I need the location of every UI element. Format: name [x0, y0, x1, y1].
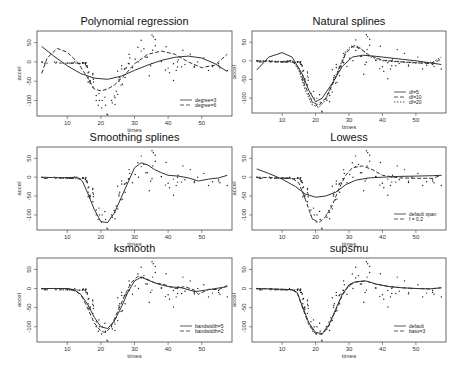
- legend: degree=3degree=6: [180, 97, 216, 108]
- legend-label: bass=3: [409, 328, 425, 334]
- y-tick-label: 50: [241, 154, 247, 161]
- panel-supsmu: supsmu1020304050500-50-100timesacceldefa…: [231, 242, 446, 359]
- x-tick-label: 30: [346, 234, 353, 240]
- x-tick-label: 10: [64, 120, 71, 126]
- y-tick-label: -100: [241, 208, 247, 221]
- fit-curve: [42, 163, 228, 223]
- y-tick-label: 50: [26, 154, 32, 161]
- y-tick-label: 50: [26, 265, 32, 272]
- x-tick-label: 50: [413, 346, 420, 352]
- x-tick-label: 40: [165, 120, 172, 126]
- x-tick-label: 10: [64, 346, 71, 352]
- x-tick-label: 10: [279, 117, 286, 123]
- y-tick-label: -100: [26, 320, 32, 333]
- y-axis-label: accel: [16, 66, 22, 80]
- x-tick-label: 20: [312, 117, 319, 123]
- x-tick-label: 10: [279, 346, 286, 352]
- panel-title: supsmu: [330, 242, 369, 254]
- x-tick-label: 50: [198, 346, 205, 352]
- regression-comparison-figure: Polynomial regression1020304050500-50-10…: [0, 0, 470, 371]
- legend-label: f = 0.2: [409, 216, 423, 222]
- y-tick-label: -50: [26, 191, 32, 200]
- x-tick-label: 50: [413, 117, 420, 123]
- x-tick-label: 30: [346, 117, 353, 123]
- y-tick-label: 0: [26, 60, 32, 64]
- y-tick-label: -50: [241, 74, 247, 83]
- y-tick-label: 0: [26, 286, 32, 290]
- y-tick-label: 50: [241, 265, 247, 272]
- x-tick-label: 20: [312, 346, 319, 352]
- x-axis-label: times: [127, 353, 141, 359]
- x-tick-label: 30: [131, 234, 138, 240]
- y-tick-label: 0: [241, 286, 247, 290]
- x-tick-label: 30: [346, 346, 353, 352]
- x-tick-label: 20: [98, 234, 105, 240]
- y-tick-label: 50: [26, 39, 32, 46]
- x-tick-label: 40: [379, 346, 386, 352]
- x-tick-label: 40: [165, 346, 172, 352]
- legend: defaultbass=3: [394, 323, 425, 334]
- x-tick-label: 30: [131, 346, 138, 352]
- y-axis-label: accel: [231, 181, 237, 195]
- y-tick-label: -50: [241, 303, 247, 312]
- x-tick-label: 20: [98, 346, 105, 352]
- x-axis-label: times: [342, 353, 356, 359]
- y-tick-label: -50: [26, 76, 32, 85]
- panel-title: Natural splines: [313, 15, 386, 27]
- fit-curve: [42, 277, 228, 329]
- y-axis-label: accel: [16, 293, 22, 307]
- y-tick-label: -100: [241, 91, 247, 104]
- panel-title: Smoothing splines: [90, 131, 180, 143]
- panel-ksmooth: ksmooth1020304050500-50-100timesaccelban…: [16, 242, 232, 359]
- panel-title: Polynomial regression: [80, 15, 188, 27]
- fit-curve: [257, 169, 442, 197]
- plot-frame: [37, 147, 232, 230]
- legend-label: bandwidth=2: [195, 328, 224, 334]
- panel-title: Lowess: [330, 131, 368, 143]
- legend: bandwidth=5bandwidth=2: [180, 323, 224, 334]
- x-tick-label: 40: [379, 117, 386, 123]
- panel-smoothing-splines: Smoothing splines1020304050500-50-100tim…: [16, 131, 232, 247]
- x-tick-label: 20: [312, 234, 319, 240]
- x-tick-label: 30: [131, 120, 138, 126]
- y-tick-label: 0: [241, 58, 247, 62]
- fit-curve: [42, 48, 228, 91]
- x-tick-label: 50: [413, 234, 420, 240]
- x-tick-label: 40: [379, 234, 386, 240]
- y-tick-label: -50: [26, 303, 32, 312]
- y-tick-label: 50: [241, 38, 247, 45]
- legend-label: df=20: [409, 99, 422, 105]
- y-tick-label: -100: [26, 94, 32, 107]
- x-tick-label: 10: [279, 234, 286, 240]
- panel-polynomial-regression: Polynomial regression1020304050500-50-10…: [16, 15, 232, 133]
- y-axis-label: accel: [231, 65, 237, 79]
- x-tick-label: 50: [198, 234, 205, 240]
- data-points: [41, 150, 228, 229]
- x-tick-label: 10: [64, 234, 71, 240]
- panel-title: ksmooth: [114, 242, 156, 254]
- x-tick-label: 20: [98, 120, 105, 126]
- legend-label: degree=6: [195, 102, 216, 108]
- y-tick-label: 0: [26, 175, 32, 179]
- panel-natural-splines: Natural splines1020304050500-50-100times…: [231, 15, 446, 130]
- legend: df=5df=10df=20: [394, 89, 422, 105]
- y-tick-label: 0: [241, 175, 247, 179]
- panel-lowess: Lowess1020304050500-50-100timesacceldefa…: [231, 131, 446, 247]
- legend: default spanf = 0.2: [394, 211, 436, 222]
- x-tick-label: 50: [198, 120, 205, 126]
- x-axis-label: times: [342, 124, 356, 130]
- y-tick-label: -100: [241, 320, 247, 333]
- y-axis-label: accel: [231, 293, 237, 307]
- y-axis-label: accel: [16, 181, 22, 195]
- y-tick-label: -50: [241, 191, 247, 200]
- x-tick-label: 40: [165, 234, 172, 240]
- y-tick-label: -100: [26, 208, 32, 221]
